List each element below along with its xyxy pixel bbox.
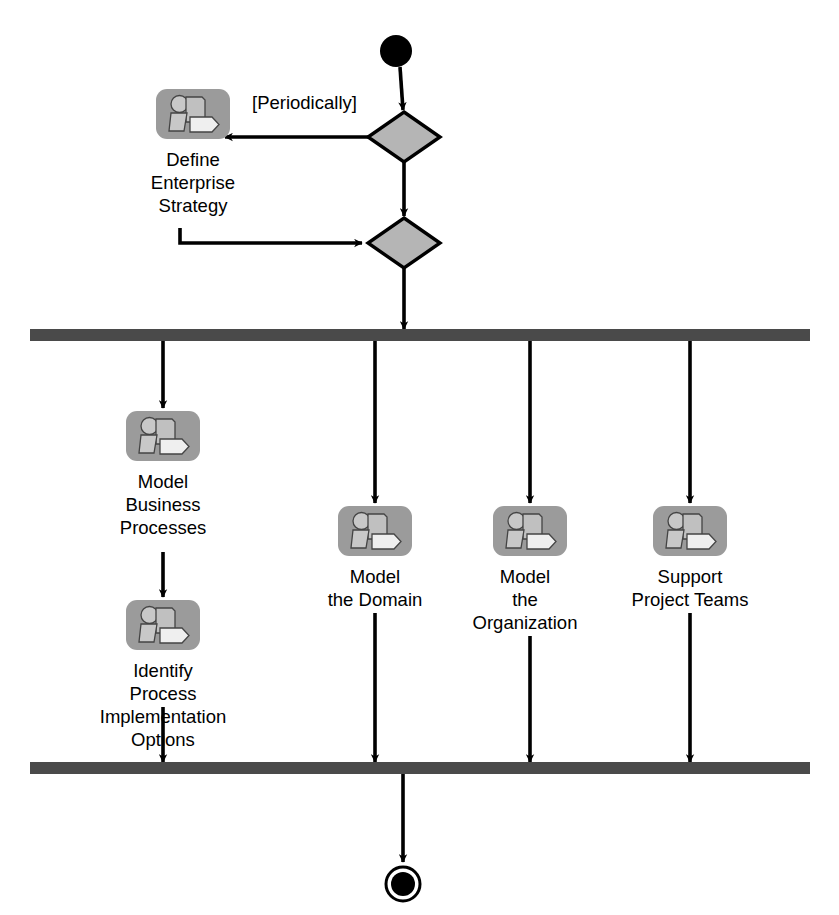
flow-define-strategy-to-merge bbox=[180, 228, 362, 243]
activity-label: Model the Organization bbox=[446, 565, 604, 634]
activity-label: Support Project Teams bbox=[601, 565, 779, 611]
actor-process-icon bbox=[653, 506, 727, 556]
actor-process-icon bbox=[493, 506, 567, 556]
initial-node bbox=[380, 35, 412, 67]
fork-bar bbox=[30, 329, 810, 341]
decision-node-periodic bbox=[368, 112, 440, 162]
final-node bbox=[386, 867, 420, 901]
actor-process-icon bbox=[338, 506, 412, 556]
merge-node bbox=[368, 218, 440, 268]
activity-label: Identify Process Implementation Options bbox=[74, 659, 252, 751]
actor-process-icon bbox=[126, 600, 200, 650]
join-bar bbox=[30, 762, 810, 774]
activity-label: Model the Domain bbox=[301, 565, 449, 611]
actor-process-icon bbox=[126, 411, 200, 461]
actor-process-icon bbox=[156, 89, 230, 139]
flow-start-to-decision1 bbox=[400, 67, 403, 110]
activity-label: Define Enterprise Strategy bbox=[119, 148, 267, 217]
guard-condition-label: [Periodically] bbox=[252, 92, 357, 114]
activity-label: Model Business Processes bbox=[89, 470, 237, 539]
activity-diagram-canvas: Define Enterprise Strategy Model Busines… bbox=[0, 0, 839, 915]
